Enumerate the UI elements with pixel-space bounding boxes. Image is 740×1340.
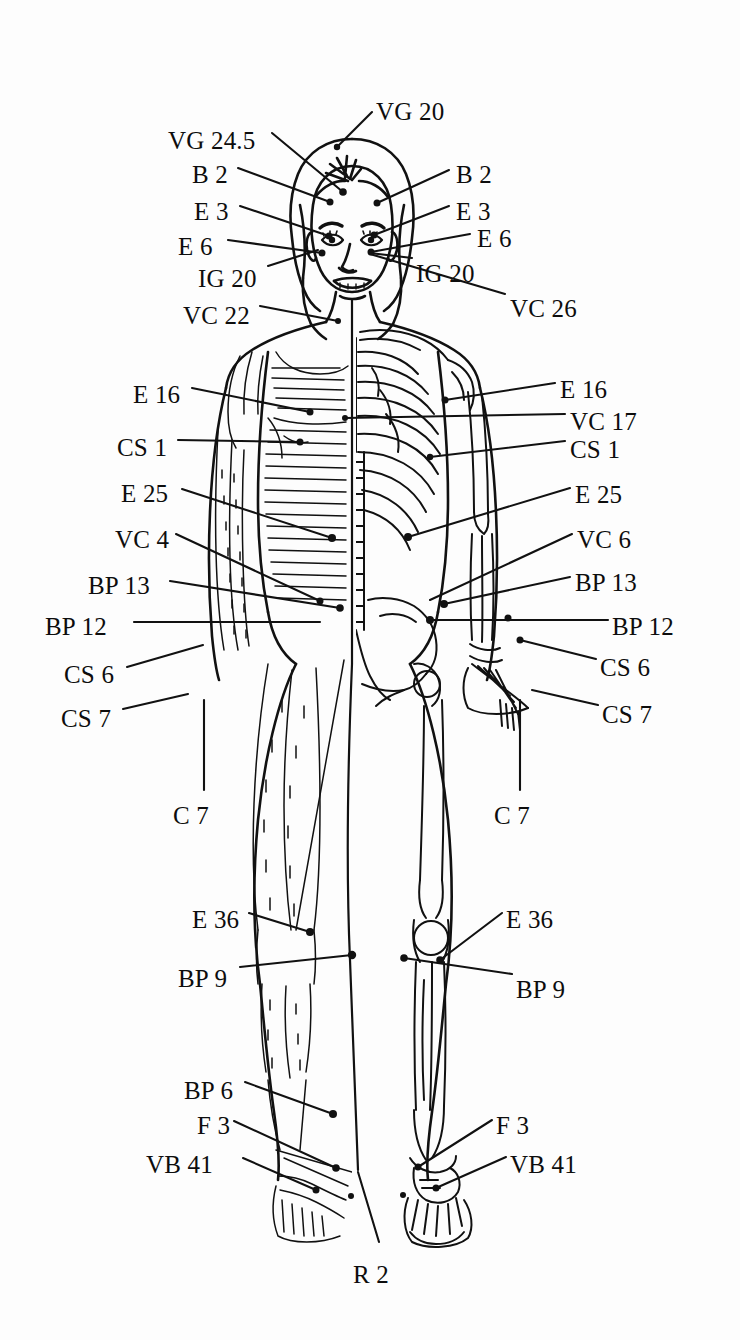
acupoint-dot-p-bp9-l bbox=[348, 951, 356, 959]
acupoint-dot-p-bp13-r bbox=[440, 600, 448, 608]
acupoint-label-e6-right: E 6 bbox=[477, 226, 512, 251]
acupoint-label-c7-left: C 7 bbox=[173, 803, 209, 828]
acupoint-dot-p-f3-l bbox=[332, 1164, 340, 1172]
acupoint-label-f3-left: F 3 bbox=[197, 1113, 230, 1138]
acupoint-label-cs6-right: CS 6 bbox=[600, 655, 650, 680]
leader-line-cs6-right bbox=[520, 640, 596, 659]
acupoint-label-bp9-left: BP 9 bbox=[178, 966, 227, 991]
acupoint-label-e25-right: E 25 bbox=[575, 482, 622, 507]
leader-line-r2 bbox=[358, 1172, 379, 1242]
leader-lines bbox=[123, 112, 608, 1242]
acupoint-dot-p-vb41-l bbox=[313, 1187, 320, 1194]
acupoint-dot-p-b2-l bbox=[327, 199, 334, 206]
acupoint-label-c7-right: C 7 bbox=[494, 803, 530, 828]
leader-line-e25-right bbox=[408, 488, 570, 537]
acupoint-dot-p-e6-r bbox=[368, 249, 375, 256]
acupoint-label-e25-left: E 25 bbox=[121, 481, 168, 506]
acupoint-dot-p-r2-r bbox=[400, 1192, 406, 1198]
acupoint-label-vb41-left: VB 41 bbox=[146, 1152, 213, 1177]
leader-line-cs1-left bbox=[178, 440, 300, 442]
acupoint-label-bp13-left: BP 13 bbox=[88, 573, 150, 598]
leader-line-vb41-right bbox=[436, 1157, 506, 1188]
acupoint-label-e36-right: E 36 bbox=[506, 907, 553, 932]
leader-line-e3-right bbox=[374, 206, 449, 235]
acupoint-label-f3-right: F 3 bbox=[496, 1113, 529, 1138]
leader-line-cs1-right bbox=[430, 441, 565, 457]
acupoint-label-bp12-left: BP 12 bbox=[45, 614, 107, 639]
acupoint-dot-p-b2-r bbox=[374, 200, 381, 207]
acupoint-dot-p-vc22 bbox=[335, 318, 341, 324]
acupoint-dot-p-bp9-r bbox=[400, 954, 408, 962]
acupoint-label-bp9-right: BP 9 bbox=[516, 977, 565, 1002]
acupoint-dot-p-e6-l bbox=[319, 250, 326, 257]
acupoint-label-bp6: BP 6 bbox=[184, 1078, 233, 1103]
acupoint-dot-p-vg20 bbox=[334, 144, 340, 150]
leader-line-cs6-left bbox=[127, 645, 203, 667]
acupoint-label-vc4: VC 4 bbox=[115, 527, 169, 552]
acupoint-label-cs6-left: CS 6 bbox=[64, 662, 114, 687]
acupoint-label-ig20-right: IG 20 bbox=[416, 261, 475, 286]
acupoint-label-e36-left: E 36 bbox=[192, 907, 239, 932]
leader-line-b2-left bbox=[238, 168, 330, 202]
acupoint-dot-p-bp13-l bbox=[336, 604, 344, 612]
acupoint-label-e16-right: E 16 bbox=[560, 377, 607, 402]
leader-line-e16-left bbox=[192, 388, 310, 412]
acupoint-label-e3-left: E 3 bbox=[194, 199, 229, 224]
acupoint-dot-p-e36-l bbox=[306, 928, 314, 936]
acupoint-dot-p-vg24_5 bbox=[339, 188, 347, 196]
acupoint-dot-p-e3-l bbox=[326, 233, 333, 240]
acupoint-label-bp12-right: BP 12 bbox=[612, 614, 674, 639]
acupoint-label-b2-right: B 2 bbox=[456, 162, 492, 187]
acupoint-dot-p-e16-l bbox=[307, 409, 314, 416]
acupoint-label-cs1-left: CS 1 bbox=[117, 435, 167, 460]
diagram-page: VG 20VG 24.5B 2B 2E 3E 3E 6E 6IG 20IG 20… bbox=[0, 0, 740, 1340]
acupoint-label-cs7-left: CS 7 bbox=[61, 706, 111, 731]
acupoint-dot-p-f3-r bbox=[415, 1164, 422, 1171]
leader-line-vc6 bbox=[430, 534, 572, 600]
leader-line-cs7-right bbox=[532, 690, 598, 705]
acupoint-dot-p-e36-r bbox=[436, 956, 444, 964]
acupoint-label-vg24_5: VG 24.5 bbox=[168, 128, 256, 153]
leader-line-bp6 bbox=[245, 1082, 333, 1114]
leader-line-cs7-left bbox=[123, 694, 188, 709]
acupoint-dot-p-bp6 bbox=[329, 1110, 337, 1118]
acupoint-dot-p-e16-r bbox=[442, 397, 449, 404]
acupoint-dot-p-cs6-r bbox=[517, 637, 524, 644]
acupoint-dot-p-e25-r bbox=[404, 533, 412, 541]
acupoint-dot-p-vc17 bbox=[342, 415, 348, 421]
leader-line-vc4 bbox=[176, 534, 320, 601]
acupoint-dot-p-bp12-r bbox=[426, 616, 434, 624]
acupoint-dot-p-cs1-l bbox=[297, 439, 304, 446]
acupoint-label-b2-left: B 2 bbox=[192, 162, 228, 187]
acupoint-label-cs1-right: CS 1 bbox=[570, 437, 620, 462]
acupoint-label-vc17: VC 17 bbox=[570, 409, 637, 434]
acupoint-label-vg20: VG 20 bbox=[376, 99, 444, 124]
leader-line-vc22 bbox=[260, 306, 338, 321]
acupoint-dot-p-e3-r bbox=[371, 232, 378, 239]
leader-line-bp13-left bbox=[170, 581, 340, 608]
acupoint-label-e6-left: E 6 bbox=[178, 234, 213, 259]
acupoint-dot-p-vb41-r bbox=[433, 1185, 440, 1192]
leader-line-bp9-right bbox=[404, 958, 512, 974]
acupoint-label-vb41-right: VB 41 bbox=[510, 1152, 577, 1177]
leader-line-bp13-right bbox=[444, 577, 570, 604]
leader-line-e3-left bbox=[240, 206, 329, 236]
acupoint-dot-p-cs1-r bbox=[427, 454, 433, 460]
acupoint-dot-p-e25-l bbox=[328, 534, 336, 542]
acupoint-dot-p-bp12-l2 bbox=[505, 615, 512, 622]
acupoint-dot-p-vc4 bbox=[317, 598, 324, 605]
acupoint-label-vc6: VC 6 bbox=[577, 527, 631, 552]
acupoint-label-ig20-left: IG 20 bbox=[198, 266, 257, 291]
acupoint-label-e16-left: E 16 bbox=[133, 382, 180, 407]
acupoint-label-bp13-right: BP 13 bbox=[575, 570, 637, 595]
acupoint-label-r2: R 2 bbox=[353, 1262, 389, 1287]
acupoint-label-e3-right: E 3 bbox=[456, 199, 491, 224]
leader-line-e6-right bbox=[371, 234, 470, 252]
acupoint-label-vc22: VC 22 bbox=[183, 303, 250, 328]
acupoint-label-cs7-right: CS 7 bbox=[602, 702, 652, 727]
acupoint-label-vc26: VC 26 bbox=[510, 296, 577, 321]
body-outline bbox=[209, 139, 528, 1247]
acupoint-dot-p-r2-l bbox=[348, 1193, 354, 1199]
